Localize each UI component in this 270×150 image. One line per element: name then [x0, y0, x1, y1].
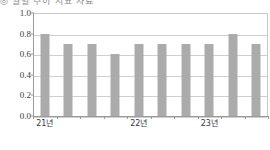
- y-axis-tick-label: 0.8: [20, 29, 31, 38]
- bar: [252, 44, 261, 116]
- bar: [64, 44, 73, 116]
- x-axis-tick-mark: [104, 116, 105, 119]
- x-axis-tick-mark: [127, 116, 128, 119]
- y-axis-tick-label: 1.0: [20, 9, 31, 18]
- chart-screenshot: ◎ 월별 추이 지표 자료 0.00.20.40.60.81.0 21년22년2…: [0, 0, 270, 150]
- x-axis-tick-mark: [33, 116, 34, 119]
- x-axis-tick-mark: [198, 116, 199, 119]
- chart-title-clipped: ◎ 월별 추이 지표 자료: [0, 0, 270, 6]
- y-axis-tick-label: 0.2: [20, 91, 31, 100]
- x-axis-tick-label: 22년: [130, 120, 147, 128]
- x-axis-tick-label: 23년: [201, 120, 218, 128]
- x-axis-tick-mark: [174, 116, 175, 119]
- bar-series: [33, 13, 268, 116]
- y-axis-tick-label: 0.6: [20, 50, 31, 59]
- x-axis-tick-mark: [268, 116, 269, 119]
- x-axis-tick-mark: [245, 116, 246, 119]
- bar: [111, 54, 120, 116]
- x-axis-tick-mark: [221, 116, 222, 119]
- x-axis-tick-mark: [57, 116, 58, 119]
- bar: [228, 34, 237, 116]
- x-axis-tick-mark: [80, 116, 81, 119]
- bar: [181, 44, 190, 116]
- bar: [87, 44, 96, 116]
- bar: [205, 44, 214, 116]
- y-axis-tick-label: 0.4: [20, 70, 31, 79]
- bar: [134, 44, 143, 116]
- bar: [158, 44, 167, 116]
- bar-chart: 0.00.20.40.60.81.0 21년22년23년: [0, 8, 270, 140]
- x-axis-tick-mark: [151, 116, 152, 119]
- x-axis-ticks: 21년22년23년: [33, 116, 268, 138]
- bar: [40, 34, 49, 116]
- x-axis-tick-label: 21년: [36, 120, 53, 128]
- y-axis-tick-label: 0.0: [20, 112, 31, 121]
